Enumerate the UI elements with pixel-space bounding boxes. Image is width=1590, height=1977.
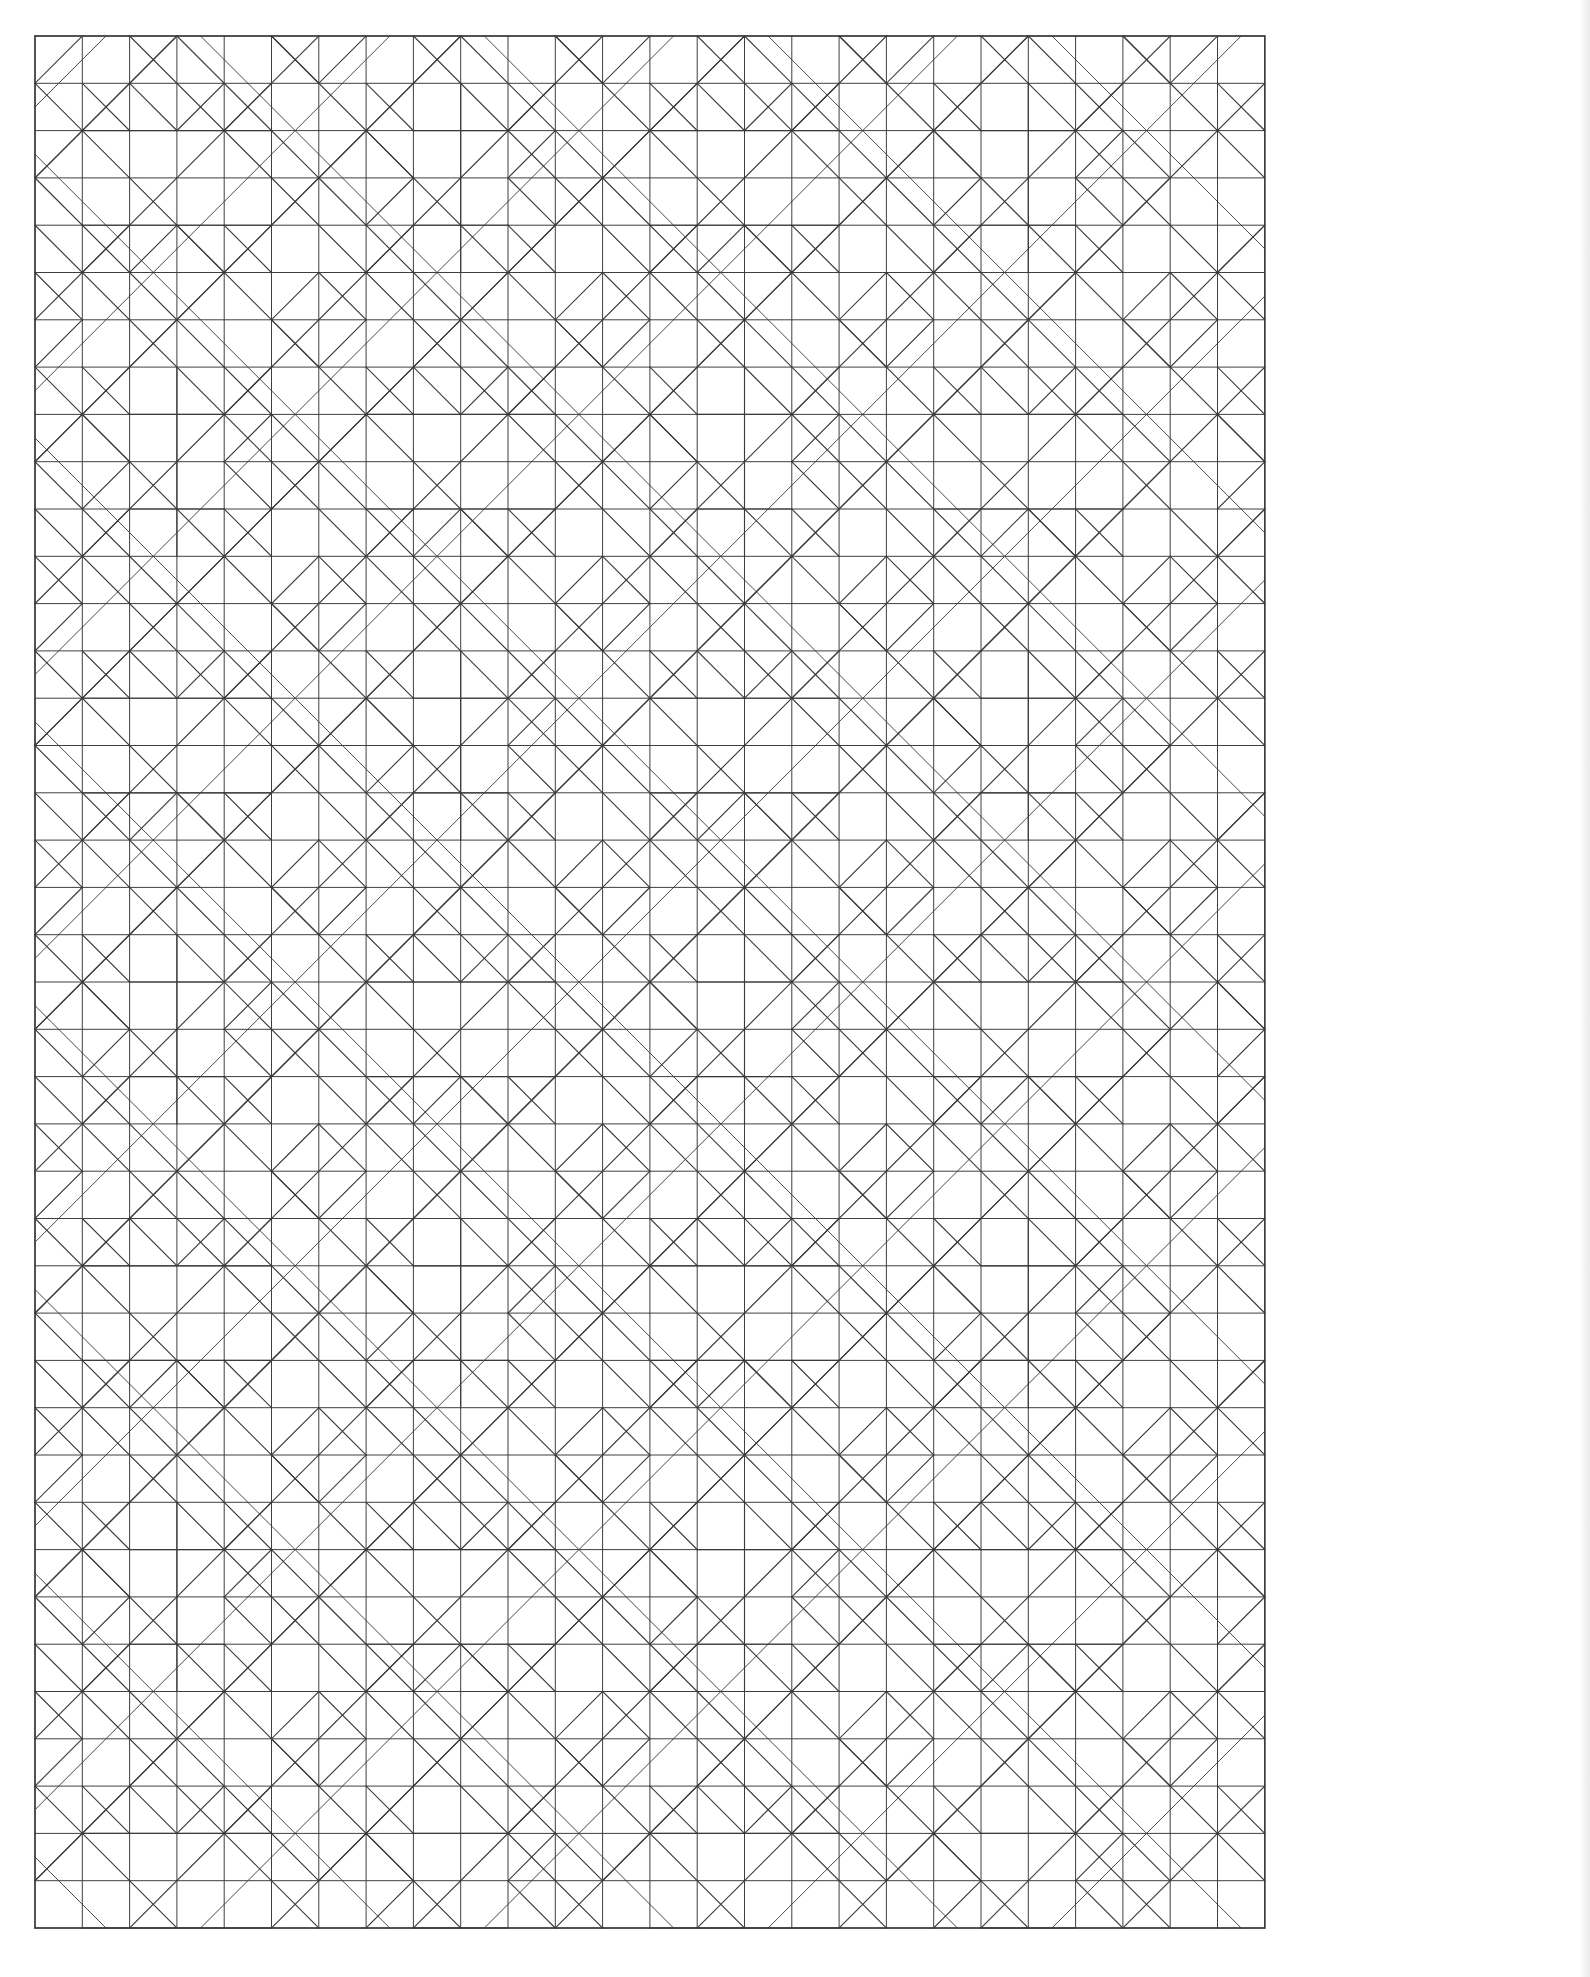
canvas-background — [0, 0, 1590, 1977]
geometric-pattern-canvas — [0, 0, 1590, 1977]
page-surface — [0, 0, 1590, 1977]
